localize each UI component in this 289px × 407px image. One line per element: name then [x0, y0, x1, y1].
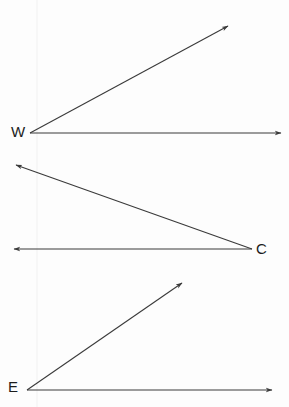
angle-c-upper-ray — [16, 165, 252, 249]
angle-c-group — [14, 165, 252, 249]
vertex-label-w: W — [11, 124, 25, 139]
angle-e-group — [27, 283, 272, 390]
vertex-label-e: E — [8, 379, 18, 394]
angle-w-upper-ray — [30, 26, 228, 133]
angle-e-upper-ray — [27, 283, 182, 390]
angle-w-group — [30, 26, 281, 133]
diagram-canvas — [0, 0, 289, 407]
angles-diagram: W C E — [0, 0, 289, 407]
vertex-label-c: C — [256, 241, 267, 256]
